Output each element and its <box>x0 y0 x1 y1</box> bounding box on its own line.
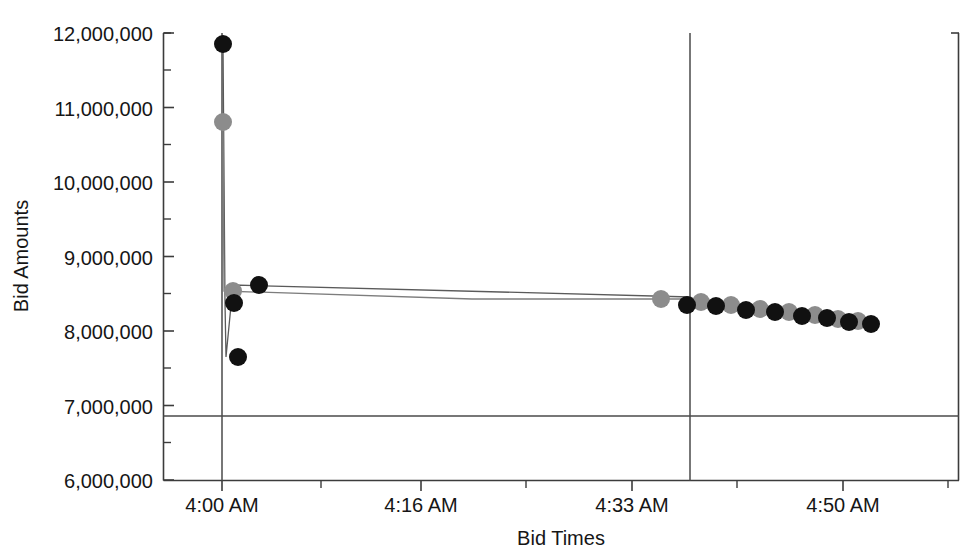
y-tick-label: 12,000,000 <box>53 23 153 45</box>
x-axis-tick-labels: 4:00 AM 4:16 AM 4:33 AM 4:50 AM <box>185 494 879 516</box>
y-tick-label: 11,000,000 <box>54 98 153 120</box>
y-axis-major-ticks <box>164 33 175 480</box>
data-point-black <box>862 315 880 333</box>
y-tick-label: 9,000,000 <box>64 247 153 269</box>
x-tick-label: 4:00 AM <box>185 494 258 516</box>
data-point-gray <box>214 113 232 131</box>
x-axis-minor-ticks <box>321 481 948 489</box>
y-tick-label: 6,000,000 <box>64 470 153 492</box>
x-axis-title: Bid Times <box>517 527 605 549</box>
plot-frame <box>164 33 960 481</box>
data-point-black <box>818 309 836 327</box>
x-tick-label: 4:16 AM <box>384 494 457 516</box>
x-tick-label: 4:50 AM <box>806 494 879 516</box>
data-point-black <box>229 348 247 366</box>
data-point-gray <box>652 290 670 308</box>
x-tick-label: 4:33 AM <box>595 494 668 516</box>
data-point-black <box>737 301 755 319</box>
y-tick-label: 8,000,000 <box>64 321 153 343</box>
data-point-black <box>678 296 696 314</box>
data-point-black <box>766 303 784 321</box>
y-axis-title: Bid Amounts <box>10 200 32 312</box>
gray-series-line <box>223 122 802 317</box>
bid-chart-container: 12,000,000 11,000,000 10,000,000 9,000,0… <box>0 0 977 560</box>
y-tick-label: 10,000,000 <box>53 172 153 194</box>
data-point-black <box>707 297 725 315</box>
y-tick-label: 7,000,000 <box>64 396 153 418</box>
y-axis-tick-labels: 12,000,000 11,000,000 10,000,000 9,000,0… <box>53 23 153 492</box>
x-axis-major-ticks <box>222 481 843 492</box>
data-point-black <box>840 313 858 331</box>
data-point-black <box>214 35 232 53</box>
gray-series-points <box>214 113 867 330</box>
data-point-black <box>793 307 811 325</box>
data-point-black <box>225 294 243 312</box>
bid-scatter-chart: 12,000,000 11,000,000 10,000,000 9,000,0… <box>0 0 977 560</box>
black-series-points <box>214 35 880 366</box>
data-point-black <box>250 276 268 294</box>
reference-lines <box>164 33 960 481</box>
